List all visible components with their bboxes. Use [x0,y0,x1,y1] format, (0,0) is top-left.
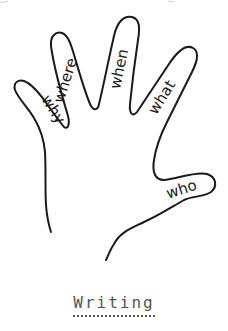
finger-label-what: what [144,77,179,118]
caption-title: Writing [73,293,154,317]
caption: Writing [0,293,228,317]
hand-outline-icon: why where when what who [0,0,228,331]
wrist-line-left [45,152,51,232]
hand-diagram: why where when what who Writing [0,0,228,331]
